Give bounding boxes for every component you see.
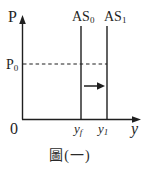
as-shift-figure: P AS0 AS1 P0 0 yf y1 y 圖(一): [0, 0, 154, 170]
p-axis-arrowhead-icon: [19, 15, 26, 24]
x-axis-name-label: y: [129, 120, 139, 138]
tick-y1-label: y1: [96, 121, 108, 137]
figure-caption: 圖(一): [0, 144, 140, 164]
tick-yf-label: yf: [72, 121, 84, 137]
price-p0-label: P0: [6, 57, 19, 73]
as0-label: AS0: [72, 9, 95, 25]
origin-label: 0: [10, 120, 18, 137]
shift-arrowhead-icon: [97, 82, 105, 89]
as1-label: AS1: [104, 9, 126, 25]
p-axis-label: P: [8, 8, 17, 25]
